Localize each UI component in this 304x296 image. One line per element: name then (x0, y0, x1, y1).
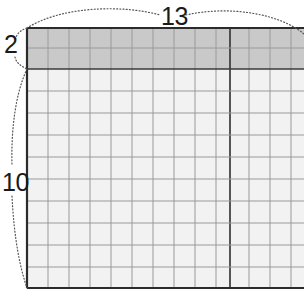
columns-count-label: 13 (161, 2, 188, 30)
body-rows-count-label: 10 (2, 168, 29, 196)
diagram-canvas: 13 2 10 (0, 0, 304, 296)
header-rows-count-label: 2 (4, 30, 17, 58)
grid-diagram: 13 2 10 (0, 0, 304, 296)
